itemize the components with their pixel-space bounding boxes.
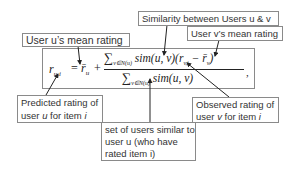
formula-plus: + [94,61,101,76]
formula-numerator: ∑v∈N(u) sim(u, v)(rv,i − r̄v) [104,50,213,66]
numerator-body: sim(u, v)(r [135,52,184,64]
label-observed: Observed rating of user v for item i [192,97,279,123]
formula-trailing-comma: , [246,66,249,78]
label-observed-line2: user v for item i [196,111,275,123]
numerator-close: ) [209,52,213,64]
formula-denominator: ∑v∈N(u) sim(u, v) [122,70,193,86]
denominator-sum-symbol: ∑ [122,70,131,85]
numerator-sum-symbol: ∑ [104,50,113,65]
label-neighbors-line2: user u (who have [105,136,192,148]
label-similarity-text: Similarity between Users u & v [142,13,271,24]
label-mean-u-text: User u’s mean rating [26,34,123,46]
formula-lhs: ru,i [49,62,61,78]
label-neighbors: set of users similar to user u (who have… [101,122,196,161]
lhs-subscript: u,i [54,70,61,78]
label-neighbors-line1: set of users similar to [105,124,192,136]
mean-u-subscript: u [86,69,90,77]
numerator-minus-mean: − r̄ [189,52,207,64]
label-predicted: Predicted rating of user u for item i [17,95,103,123]
label-predicted-line1: Predicted rating of [21,97,99,110]
label-mean-u: User u’s mean rating [22,33,130,47]
label-similarity: Similarity between Users u & v [138,11,279,26]
label-mean-v-text: User v’s mean rating [191,28,278,39]
label-predicted-line2: user u for item i [21,110,99,123]
label-mean-v: User v’s mean rating [187,26,283,41]
label-observed-line1: Observed rating of [196,99,275,111]
numerator-sum-subscript: v∈N(u) [113,60,132,66]
denominator-body: sim(u, v) [153,72,193,84]
denominator-sum-subscript: v∈N(u) [131,80,150,86]
formula-equals: = [71,61,78,76]
formula-mean-u: r̄u [81,61,89,77]
label-neighbors-line3: rated item i) [105,148,192,160]
